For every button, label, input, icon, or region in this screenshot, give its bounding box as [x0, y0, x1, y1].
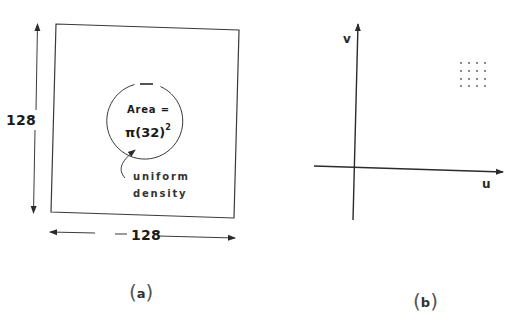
region-circle	[107, 85, 183, 160]
annotation-density: density	[133, 189, 187, 199]
figure-canvas	[0, 0, 525, 328]
area-formula-base: π(32)	[125, 125, 165, 140]
area-label: Area =	[127, 105, 170, 115]
height-dimension-arrow-down	[34, 130, 36, 213]
width-dimension-arrow-left	[50, 232, 95, 233]
caption-a: (a)	[129, 281, 153, 301]
sample-dot-grid	[460, 62, 486, 87]
width-label: 128	[131, 228, 161, 242]
annotation-uniform: uniform	[133, 172, 190, 182]
width-dimension-arrow-right	[158, 236, 235, 238]
u-axis-label: u	[482, 178, 491, 190]
height-dimension-arrow-up	[36, 24, 38, 110]
area-formula-exponent: 2	[165, 123, 171, 132]
area-formula: π(32)2	[125, 126, 171, 139]
v-axis	[353, 24, 358, 220]
caption-b-letter: b	[421, 295, 430, 310]
panel-b	[314, 24, 503, 220]
height-label: 128	[6, 111, 36, 129]
caption-a-letter: a	[137, 286, 146, 301]
v-axis-label: v	[343, 33, 351, 45]
u-axis	[314, 166, 503, 172]
caption-b: (b)	[413, 290, 438, 310]
